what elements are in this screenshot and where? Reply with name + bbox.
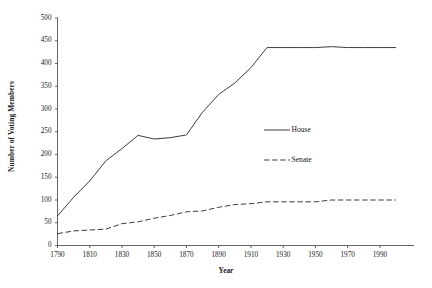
- y-axis-tick-label: 0: [18, 241, 52, 249]
- x-axis-tick-label: 1990: [360, 251, 400, 259]
- legend-label-house: House: [292, 125, 311, 134]
- plot-area: [0, 0, 432, 288]
- y-axis-tick-label: 250: [18, 127, 52, 135]
- data-series: [58, 47, 397, 234]
- y-axis-tick-label: 350: [18, 82, 52, 90]
- series-line-senate: [58, 200, 397, 234]
- axis-lines: [58, 18, 415, 246]
- axis-tick-marks: [55, 18, 380, 248]
- y-axis-tick-label: 50: [18, 218, 52, 226]
- x-axis-title: Year: [56, 266, 396, 275]
- legend-label-senate: Senate: [292, 155, 312, 164]
- y-axis-tick-label: 200: [18, 150, 52, 158]
- y-axis-tick-label: 300: [18, 105, 52, 113]
- chart-figure: Number of Voting Members Year 0501001502…: [0, 0, 432, 288]
- y-axis-tick-label: 100: [18, 196, 52, 204]
- y-axis-tick-label: 450: [18, 36, 52, 44]
- y-axis-title-text: Number of Voting Members: [7, 81, 16, 172]
- y-axis-tick-label: 500: [18, 14, 52, 22]
- series-line-house: [58, 47, 397, 216]
- legend-swatches: [264, 130, 290, 160]
- y-axis-tick-label: 400: [18, 59, 52, 67]
- y-axis-tick-label: 150: [18, 173, 52, 181]
